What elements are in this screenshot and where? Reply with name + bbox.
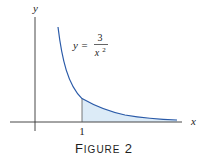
equation-denominator: x [94,47,100,58]
caption-number: 2 [125,141,133,156]
x-axis-label: x [190,115,196,127]
x-tick-label: 1 [79,125,85,137]
figure-caption: FIGURE 2 [0,141,208,156]
equation-lhs: y = [72,39,88,51]
caption-initial: F [75,141,84,156]
equation-exponent: 2 [102,46,106,54]
shaded-area [82,99,177,122]
y-axis-label: y [32,2,38,14]
equation-numerator: 3 [98,32,103,43]
caption-rest: IGURE [84,144,121,155]
chart-svg: 1 x y y = 3 x 2 [0,0,208,162]
